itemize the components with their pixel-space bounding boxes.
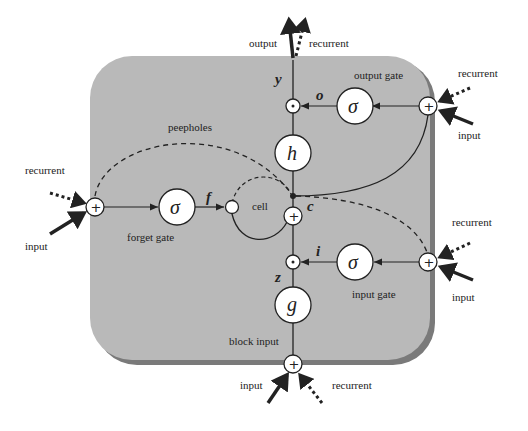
svg-text:σ: σ bbox=[170, 196, 181, 218]
recurrent-left-label: recurrent bbox=[25, 164, 65, 176]
output-label: output bbox=[249, 37, 277, 49]
recurrent-right-top-label: recurrent bbox=[458, 67, 498, 79]
z-symbol: z bbox=[274, 269, 281, 285]
svg-text:σ: σ bbox=[348, 251, 359, 273]
c-symbol: c bbox=[307, 198, 314, 214]
output-gate-label: output gate bbox=[354, 69, 403, 81]
block-input-label: block input bbox=[229, 335, 279, 347]
input-right-bottom-label: input bbox=[452, 291, 475, 303]
recurrent-top-arrow bbox=[296, 20, 305, 56]
forget-multiply-node bbox=[226, 201, 239, 214]
svg-text:g: g bbox=[287, 293, 297, 316]
peepholes-label: peepholes bbox=[168, 121, 212, 133]
output-arrow bbox=[289, 20, 293, 58]
input-bottom-label: input bbox=[240, 379, 263, 391]
input-right-top-label: input bbox=[458, 129, 481, 141]
recurrent-right-bottom-label: recurrent bbox=[452, 216, 492, 228]
lstm-diagram: output recurrent y o output gate σ + rec… bbox=[0, 0, 528, 431]
input-gate-label: input gate bbox=[352, 288, 396, 300]
forget-gate-label: forget gate bbox=[127, 231, 174, 243]
svg-text:+: + bbox=[289, 357, 300, 372]
recurrent-bottom-label: recurrent bbox=[332, 379, 372, 391]
y-symbol: y bbox=[273, 71, 282, 87]
svg-text:+: + bbox=[91, 200, 102, 215]
recurrent-top-label: recurrent bbox=[309, 37, 349, 49]
input-left-label: input bbox=[25, 240, 48, 252]
cell-label: cell bbox=[252, 200, 268, 212]
svg-text:+: + bbox=[424, 99, 435, 114]
svg-text:+: + bbox=[289, 209, 300, 224]
svg-text:σ: σ bbox=[348, 95, 359, 117]
svg-text:h: h bbox=[287, 142, 297, 164]
svg-text:+: + bbox=[424, 255, 435, 270]
o-symbol: o bbox=[316, 87, 324, 103]
